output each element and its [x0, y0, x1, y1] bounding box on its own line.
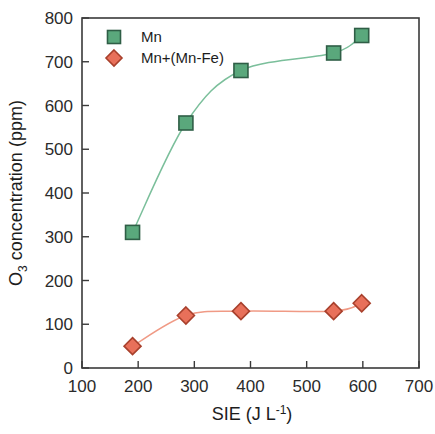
- x-tick-label: 700: [405, 377, 433, 396]
- data-point-marker: [355, 29, 369, 43]
- x-tick-label: 500: [292, 377, 320, 396]
- y-axis-title-rest: concentration (ppm): [6, 100, 26, 265]
- y-tick-label: 700: [45, 53, 73, 72]
- data-point-marker: [234, 64, 248, 78]
- y-tick-label: 0: [64, 359, 73, 378]
- y-tick-label: 200: [45, 272, 73, 291]
- data-point-marker: [179, 116, 193, 130]
- x-axis-title-superscript: -1: [276, 403, 287, 417]
- data-point-marker: [327, 46, 341, 60]
- y-tick-label: 800: [45, 9, 73, 28]
- x-tick-label: 300: [180, 377, 208, 396]
- ozone-concentration-scatter-chart: 0100200300400500600700800 10020030040050…: [0, 0, 435, 434]
- legend-label-mn: Mn: [141, 28, 162, 45]
- y-axis-title-main: O: [6, 272, 26, 286]
- x-tick-label: 400: [236, 377, 264, 396]
- x-tick-label: 200: [124, 377, 152, 396]
- x-tick-label: 100: [68, 377, 96, 396]
- y-tick-label: 400: [45, 184, 73, 203]
- y-tick-label: 100: [45, 315, 73, 334]
- legend-swatch-square: [108, 31, 121, 44]
- legend-label-mn-mn-fe: Mn+(Mn-Fe): [141, 49, 224, 66]
- x-tick-label: 600: [349, 377, 377, 396]
- data-point-marker: [126, 225, 140, 239]
- legend-marker-mn: [108, 31, 121, 44]
- chart-figure: 0100200300400500600700800 10020030040050…: [0, 0, 435, 434]
- y-tick-label: 600: [45, 97, 73, 116]
- y-tick-label: 300: [45, 228, 73, 247]
- x-axis-title-main: SIE (J L: [212, 404, 276, 424]
- x-axis-title-close: ): [286, 404, 292, 424]
- y-tick-label: 500: [45, 140, 73, 159]
